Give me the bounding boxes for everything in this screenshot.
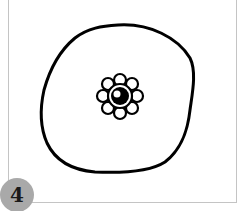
drawing-canvas xyxy=(0,0,240,211)
flower-icon xyxy=(97,74,143,119)
step-number-badge: 4 xyxy=(0,178,34,211)
